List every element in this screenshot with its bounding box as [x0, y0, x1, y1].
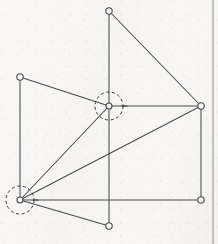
edge-top-to-right: [109, 11, 201, 106]
edges-group: [20, 11, 201, 226]
node-bottom-right-node: [198, 197, 204, 203]
edge-lowerleft-to-bottomcenter: [20, 200, 109, 226]
node-center-hub-node: [106, 103, 112, 109]
edge-lowerleft-to-right: [20, 106, 201, 200]
node-lower-left-hub-node: [17, 197, 23, 203]
edge-center-to-lowerleft: [20, 106, 109, 200]
figure-canvas: [0, 0, 218, 244]
node-right-node: [198, 103, 204, 109]
node-top-apex-node: [106, 8, 112, 14]
node-upper-left-node: [17, 74, 23, 80]
node-bottom-center-node: [106, 223, 112, 229]
line-diagram-svg: [0, 0, 218, 244]
